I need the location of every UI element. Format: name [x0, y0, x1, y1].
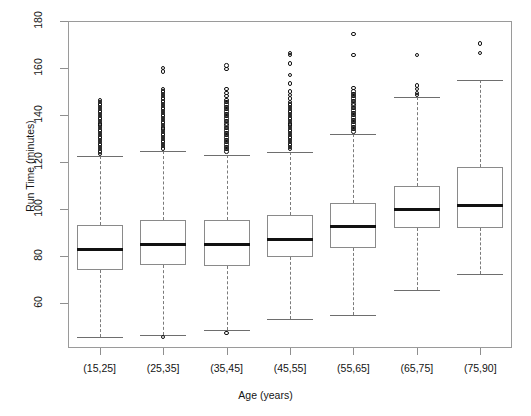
outlier-point: [351, 89, 355, 93]
y-axis-tick: [60, 115, 68, 116]
x-axis-tick: [480, 348, 481, 355]
median-line: [204, 243, 250, 246]
whisker-lower: [353, 248, 354, 315]
median-line: [394, 208, 440, 211]
whisker-lower: [100, 270, 101, 338]
whisker-lower: [227, 266, 228, 331]
x-axis-tick-label: (75,90]: [440, 362, 520, 374]
y-axis-tick: [60, 162, 68, 163]
y-axis-tick: [60, 256, 68, 257]
whisker-cap-upper: [330, 134, 376, 135]
outlier-point: [98, 98, 102, 102]
whisker-upper: [227, 155, 228, 220]
y-axis-tick-label: 120: [32, 141, 44, 181]
boxplot-figure: Run Time (minutes) 6080100120140160180 (…: [0, 0, 531, 416]
whisker-cap-lower: [330, 315, 376, 316]
box-iqr: [267, 215, 313, 257]
outlier-point: [224, 63, 228, 67]
whisker-cap-upper: [204, 155, 250, 156]
outlier-point: [351, 32, 355, 36]
box-iqr: [394, 186, 440, 228]
whisker-cap-lower: [457, 274, 503, 275]
whisker-cap-upper: [267, 152, 313, 153]
outlier-point: [288, 96, 292, 100]
whisker-cap-upper: [394, 97, 440, 98]
median-line: [457, 204, 503, 207]
outlier-point: [288, 51, 292, 55]
whisker-cap-lower: [77, 337, 123, 338]
whisker-upper: [290, 152, 291, 216]
x-axis-tick: [290, 348, 291, 355]
y-axis-tick-label: 60: [32, 282, 44, 322]
outlier-point: [415, 91, 419, 95]
y-axis-tick-label: 80: [32, 235, 44, 275]
outlier-point: [288, 61, 292, 65]
x-axis-tick: [163, 348, 164, 355]
box-iqr: [457, 167, 503, 228]
x-axis-tick: [417, 348, 418, 355]
whisker-upper: [163, 151, 164, 220]
x-axis-tick: [353, 348, 354, 355]
whisker-lower: [290, 257, 291, 318]
outlier-point: [161, 69, 165, 73]
y-axis-tick: [60, 209, 68, 210]
whisker-upper: [417, 97, 418, 185]
whisker-upper: [480, 80, 481, 167]
whisker-cap-lower: [394, 290, 440, 291]
median-line: [267, 238, 313, 241]
whisker-cap-upper: [77, 156, 123, 157]
outlier-point: [415, 83, 419, 87]
outlier-point: [478, 41, 482, 45]
whisker-cap-upper: [140, 151, 186, 152]
whisker-upper: [353, 134, 354, 203]
y-axis-tick-label: 140: [32, 94, 44, 134]
median-line: [77, 248, 123, 251]
median-line: [140, 243, 186, 246]
whisker-lower: [163, 265, 164, 335]
outlier-point: [224, 98, 228, 102]
y-axis-tick: [60, 21, 68, 22]
whisker-lower: [417, 228, 418, 290]
x-axis-tick: [227, 348, 228, 355]
median-line: [330, 225, 376, 228]
outlier-point: [288, 89, 292, 93]
y-axis-tick-label: 100: [32, 188, 44, 228]
outlier-point: [288, 81, 292, 85]
outlier-point: [224, 91, 228, 95]
whisker-cap-lower: [267, 319, 313, 320]
y-axis-tick-label: 160: [32, 47, 44, 87]
y-axis-tick-label: 180: [32, 0, 44, 40]
x-axis-tick: [100, 348, 101, 355]
y-axis-tick: [60, 68, 68, 69]
y-axis-tick: [60, 303, 68, 304]
whisker-lower: [480, 228, 481, 274]
x-axis-title: Age (years): [0, 389, 531, 401]
outlier-point: [224, 331, 228, 335]
outlier-point: [351, 53, 355, 57]
whisker-cap-upper: [457, 80, 503, 81]
outlier-point: [351, 86, 355, 90]
whisker-upper: [100, 156, 101, 225]
